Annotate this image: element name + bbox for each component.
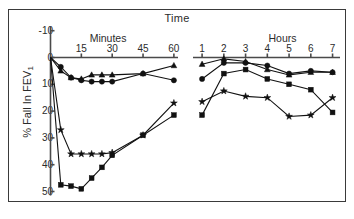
marker-square (243, 67, 248, 72)
marker-circle (140, 71, 145, 76)
marker-circle (330, 70, 335, 75)
marker-square (265, 77, 270, 82)
figure-container: Time % Fall In FEV1 -1001020304050 Minut… (0, 0, 354, 219)
marker-square (58, 182, 63, 187)
marker-circle (199, 76, 204, 81)
marker-square (110, 153, 115, 158)
marker-square (100, 165, 105, 170)
marker-star (242, 93, 249, 100)
marker-star (220, 87, 227, 94)
marker-star (199, 98, 206, 105)
marker-square (221, 71, 226, 76)
marker-circle (243, 60, 248, 65)
marker-square (287, 82, 292, 87)
marker-circle (286, 71, 291, 76)
marker-circle (308, 68, 313, 73)
marker-triangle (171, 62, 177, 67)
marker-circle (58, 64, 63, 69)
marker-star (88, 150, 95, 157)
marker-square (141, 133, 146, 138)
marker-square (308, 87, 313, 92)
marker-star (307, 112, 314, 119)
marker-square (200, 113, 205, 118)
marker-square (330, 110, 335, 115)
marker-square (69, 184, 74, 189)
marker-square (89, 176, 94, 181)
marker-square (79, 186, 84, 191)
marker-circle (79, 78, 84, 83)
marker-star (57, 126, 64, 133)
marker-square (171, 113, 176, 118)
marker-circle (171, 78, 176, 83)
marker-circle (99, 79, 104, 84)
marker-star (68, 150, 75, 157)
marker-circle (221, 60, 226, 65)
marker-star (98, 150, 105, 157)
marker-star (78, 150, 85, 157)
marker-circle (68, 75, 73, 80)
marker-circle (110, 79, 115, 84)
marker-circle (89, 79, 94, 84)
plot-area (0, 0, 354, 219)
marker-circle (265, 63, 270, 68)
